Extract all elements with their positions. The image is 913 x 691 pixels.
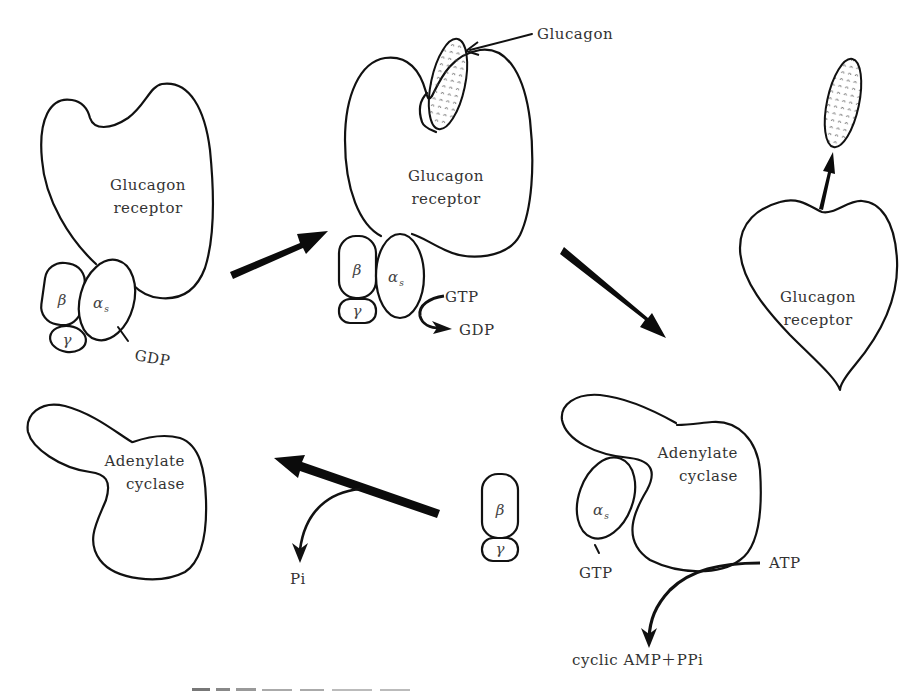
gdp-label: GDP [133,346,171,370]
step3-receptor-release: Glucagon receptor [740,56,897,390]
gamma-label: γ [353,302,362,320]
pi-label: Pi [290,570,306,588]
receptor-label-line1: Glucagon [780,288,856,306]
step2-glucagon-bound: Glucagon Glucagon receptor β γ αs GTP GD… [339,25,613,339]
arrow-step1-to-step2 [230,231,328,279]
step1-resting-complex: Glucagon receptor β γ αs GDP [39,84,213,370]
cyclase-label-line1: Adenylate [656,444,738,462]
glucagon-signaling-diagram: Glucagon receptor β γ αs GDP Glucagon Gl… [0,0,913,691]
arrow-step2-to-step3 [560,247,666,338]
alpha-s-subunit [376,234,424,318]
pi-release-arrow [300,489,360,550]
receptor-label-line2: receptor [411,190,480,208]
beta-label: β [495,501,505,519]
receptor-label-line2: receptor [783,311,852,329]
receptor-label-line1: Glucagon [110,176,186,194]
atp-label: ATP [768,554,801,572]
gtp-label: GTP [579,564,613,582]
glucagon-pointer-line [470,34,532,50]
cyclase-label-line2: cyclase [679,467,738,485]
alpha-s-subunit [566,449,645,546]
step4-reset: β γ Pi Adenylate cyclase [28,405,518,588]
atp-conversion-arrow [649,563,760,638]
receptor-label-line2: receptor [113,199,182,217]
glucagon-label: Glucagon [537,25,613,43]
cyclase-label-line2: cyclase [126,475,185,493]
gamma-label: γ [496,540,505,558]
beta-label: β [352,261,362,279]
gamma-label: γ [63,331,72,349]
gdp-label: GDP [459,321,495,339]
arrow-step3-to-step4 [274,455,440,518]
cyclase-label-line1: Adenylate [103,452,185,470]
gtp-binding-line [595,545,599,553]
gtp-label: GTP [445,288,479,306]
beta-label: β [57,291,67,309]
gtp-gdp-exchange-arrow [420,296,444,328]
release-arrow [819,152,835,210]
product-label: cyclic AMP＋PPi [572,651,703,669]
step3-cyclase-activation: Adenylate cyclase αs GTP ATP cyclic AMP＋… [562,395,801,669]
released-glucagon [818,56,868,151]
receptor-label-line1: Glucagon [408,167,484,185]
